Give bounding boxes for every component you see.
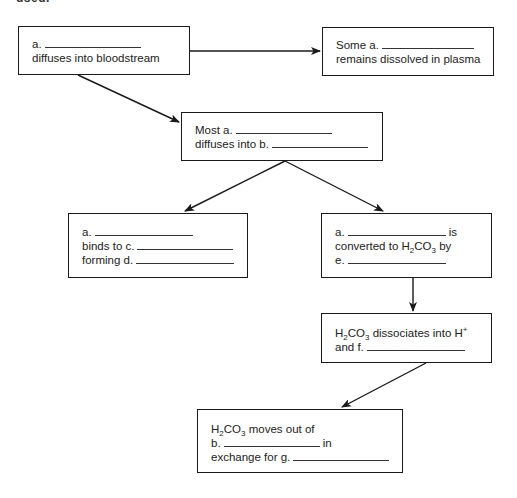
node-co2-diffuses: a. diffuses into bloodstream [18,26,190,75]
answer-blank-a[interactable] [236,123,332,134]
answer-blank-c[interactable] [137,239,233,250]
node-line: b. in [211,436,402,450]
node-most-diffuses: Most a. diffuses into b. [181,112,383,161]
node-line: H2CO3 moves out of [211,422,402,436]
node-line: and f. [335,340,491,354]
node-line: diffuses into bloodstream [32,51,189,65]
node-line: Some a. [336,38,493,52]
arrow-box6-to-box7 [342,363,426,407]
node-line: a. is [335,225,491,239]
node-line: remains dissolved in plasma [336,52,493,66]
answer-blank-a[interactable] [348,225,446,236]
node-dissolved-plasma: Some a. remains dissolved in plasma [322,27,494,76]
answer-blank-b[interactable] [272,137,368,148]
answer-blank-f[interactable] [367,340,465,351]
node-line: forming d. [82,253,247,267]
node-dissociates: H2CO3 dissociates into H+ and f. [321,313,492,363]
node-moves-out: H2CO3 moves out of b. in exchange for g. [197,409,403,473]
node-line: H2CO3 dissociates into H+ [335,326,491,340]
node-line: a. [82,225,247,239]
node-line: e. [335,253,491,267]
node-binds: a. binds to c. forming d. [68,213,248,278]
answer-blank-e[interactable] [348,253,446,264]
answer-blank-a[interactable] [45,37,141,48]
arrow-box1-to-box3 [78,75,179,122]
answer-blank-a[interactable] [95,225,193,236]
arrow-box3-to-box5 [285,161,383,211]
answer-blank-d[interactable] [136,253,234,264]
answer-blank-a[interactable] [382,38,474,49]
answer-blank-b[interactable] [224,436,320,447]
node-line: converted to H2CO3 by [335,239,491,253]
node-line: exchange for g. [211,450,402,464]
arrow-box3-to-box4 [185,161,285,211]
node-line: diffuses into b. [195,137,382,151]
node-line: Most a. [195,123,382,137]
node-line: binds to c. [82,239,247,253]
node-converted: a. is converted to H2CO3 by e. [321,213,492,278]
answer-blank-g[interactable] [293,450,389,461]
node-line: a. [32,37,189,51]
